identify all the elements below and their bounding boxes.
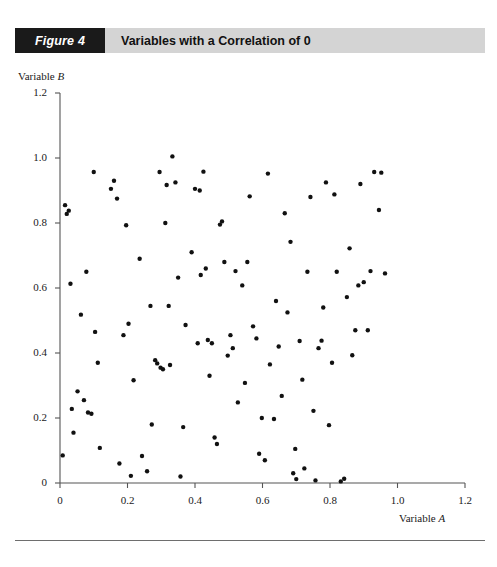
data-point	[311, 409, 315, 413]
data-point	[131, 378, 135, 382]
x-axis-tick-label: 0.4	[180, 494, 210, 506]
data-point	[155, 361, 159, 365]
data-point	[212, 435, 216, 439]
data-point	[368, 269, 372, 273]
data-point	[173, 180, 177, 184]
data-point	[124, 223, 128, 227]
data-point	[356, 283, 360, 287]
data-point	[153, 358, 157, 362]
data-point	[377, 208, 381, 212]
data-point	[332, 192, 336, 196]
data-point	[193, 187, 197, 191]
data-point	[89, 412, 93, 416]
data-point	[383, 271, 387, 275]
figure-header-band: Figure 4 Variables with a Correlation of…	[15, 28, 485, 53]
x-axis-tick-label: 0	[45, 494, 75, 506]
figure-title-text: Variables with a Correlation of 0	[121, 34, 311, 48]
data-point	[145, 469, 149, 473]
figure-number-label: Figure 4	[35, 34, 85, 48]
data-point	[280, 394, 284, 398]
data-point	[70, 407, 74, 411]
data-point	[291, 471, 295, 475]
data-point	[98, 446, 102, 450]
y-axis-tick-label: 0.8	[21, 216, 47, 228]
data-point	[257, 452, 261, 456]
data-point	[183, 323, 187, 327]
data-point-group	[61, 154, 388, 483]
data-point	[245, 260, 249, 264]
data-point	[335, 270, 339, 274]
bottom-divider-rule	[15, 540, 485, 541]
data-point	[353, 328, 357, 332]
data-point	[201, 169, 205, 173]
data-point	[228, 333, 232, 337]
data-point	[79, 312, 83, 316]
data-point	[164, 183, 168, 187]
data-point	[61, 453, 65, 457]
data-point	[277, 344, 281, 348]
y-axis-title: Variable B	[18, 70, 64, 82]
data-point	[161, 367, 165, 371]
data-point	[233, 269, 237, 273]
data-point	[263, 458, 267, 462]
data-point	[302, 466, 306, 470]
axis-lines	[60, 93, 465, 483]
scatter-chart	[0, 0, 497, 567]
data-point	[294, 477, 298, 481]
data-point	[150, 422, 154, 426]
y-axis-tick-label: 0	[21, 476, 47, 488]
x-axis-ticks	[60, 483, 465, 488]
data-point	[126, 322, 130, 326]
data-point	[293, 447, 297, 451]
data-point	[112, 179, 116, 183]
x-axis-tick-label: 1.2	[450, 494, 480, 506]
data-point	[140, 454, 144, 458]
data-point	[93, 330, 97, 334]
data-point	[163, 221, 167, 225]
data-point	[345, 295, 349, 299]
x-axis-title-prefix: Variable	[399, 512, 438, 524]
data-point	[379, 170, 383, 174]
data-point	[342, 477, 346, 481]
data-point	[168, 363, 172, 367]
y-axis-tick-label: 1.0	[21, 151, 47, 163]
data-point	[288, 240, 292, 244]
y-axis-tick-label: 0.2	[21, 411, 47, 423]
data-point	[68, 282, 72, 286]
data-point	[210, 341, 214, 345]
data-point	[316, 346, 320, 350]
data-point	[366, 328, 370, 332]
data-point	[196, 341, 200, 345]
data-point	[324, 180, 328, 184]
data-point	[218, 222, 222, 226]
data-point	[300, 377, 304, 381]
data-point	[297, 339, 301, 343]
y-axis-ticks	[55, 93, 60, 483]
data-point	[362, 280, 366, 284]
data-point	[181, 425, 185, 429]
data-point	[372, 170, 376, 174]
data-point	[65, 212, 69, 216]
data-point	[82, 398, 86, 402]
data-point	[254, 336, 258, 340]
data-point	[115, 196, 119, 200]
data-point	[84, 270, 88, 274]
data-point	[67, 208, 71, 212]
data-point	[166, 304, 170, 308]
y-axis-title-variable: B	[57, 70, 64, 82]
data-point	[178, 474, 182, 478]
scatter-plot-svg	[0, 0, 497, 567]
data-point	[313, 478, 317, 482]
data-point	[231, 346, 235, 350]
data-point	[199, 273, 203, 277]
data-point	[350, 353, 354, 357]
data-point	[109, 187, 113, 191]
data-point	[268, 362, 272, 366]
data-point	[285, 310, 289, 314]
data-point	[247, 194, 251, 198]
data-point	[170, 154, 174, 158]
data-point	[272, 417, 276, 421]
x-axis-tick-label: 0.6	[248, 494, 278, 506]
data-point	[358, 182, 362, 186]
data-point	[283, 211, 287, 215]
